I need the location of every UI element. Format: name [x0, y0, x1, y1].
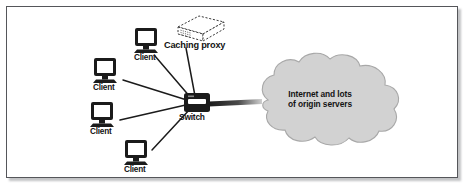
switch-label: Switch	[179, 113, 205, 122]
link-group	[120, 48, 195, 150]
client-bottom-label: Client	[124, 166, 146, 175]
client-top-label: Client	[134, 54, 156, 63]
client-top-icon	[134, 28, 158, 53]
caching-proxy-icon	[178, 16, 224, 41]
cloud-uplink	[209, 99, 262, 107]
link-proxy-switch	[186, 48, 195, 96]
client-upper-left-icon	[93, 58, 117, 83]
switch-led	[188, 96, 194, 98]
caching-proxy-label: Caching proxy	[164, 41, 225, 51]
cloud-label-line2: of origin servers	[280, 99, 360, 109]
client-lower-left-label: Client	[90, 128, 112, 137]
client-lower-left-icon	[90, 102, 114, 127]
figure-container: Client Client Client Client Caching prox…	[0, 0, 474, 196]
client-bottom-icon	[124, 140, 148, 165]
cloud-label: Internet and lots of origin servers	[280, 89, 360, 110]
client-upper-left-label: Client	[93, 84, 115, 93]
switch-slot	[188, 99, 206, 104]
cloud-label-line1: Internet and lots	[280, 89, 360, 99]
link-switch-to-cloud	[209, 99, 262, 107]
link-client-upper-left-switch	[123, 80, 190, 101]
diagram-canvas	[0, 0, 474, 196]
switch-icon	[184, 93, 210, 112]
